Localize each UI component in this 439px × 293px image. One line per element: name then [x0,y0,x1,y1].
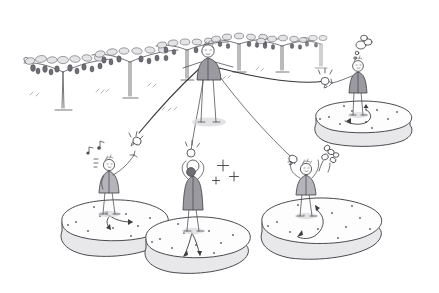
island-upper-right [315,101,412,146]
island-right [261,198,382,259]
figure-head [353,61,364,72]
illustration-canvas [0,0,439,293]
caught-ball [187,168,196,177]
figure-shadow [192,118,226,127]
vineyard-scene-drawing [0,0,439,293]
ball-in-flight [187,149,195,157]
figure-head [202,45,214,57]
island-center [145,217,250,274]
